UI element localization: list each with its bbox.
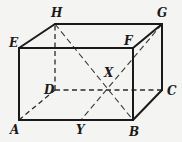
label-c: C [167,84,177,98]
label-h: H [50,6,63,20]
box-diagram: H G E F X D C A Y B [0,0,182,142]
label-g: G [157,6,167,20]
label-y: Y [76,123,86,137]
label-b: B [128,125,139,139]
edge-bc [133,90,162,120]
edge-eh [19,24,55,48]
label-a: A [9,123,19,137]
edge-fg [133,24,162,48]
label-e: E [8,36,19,50]
label-f: F [123,34,134,48]
label-x: X [103,66,114,80]
label-d: D [43,83,55,97]
